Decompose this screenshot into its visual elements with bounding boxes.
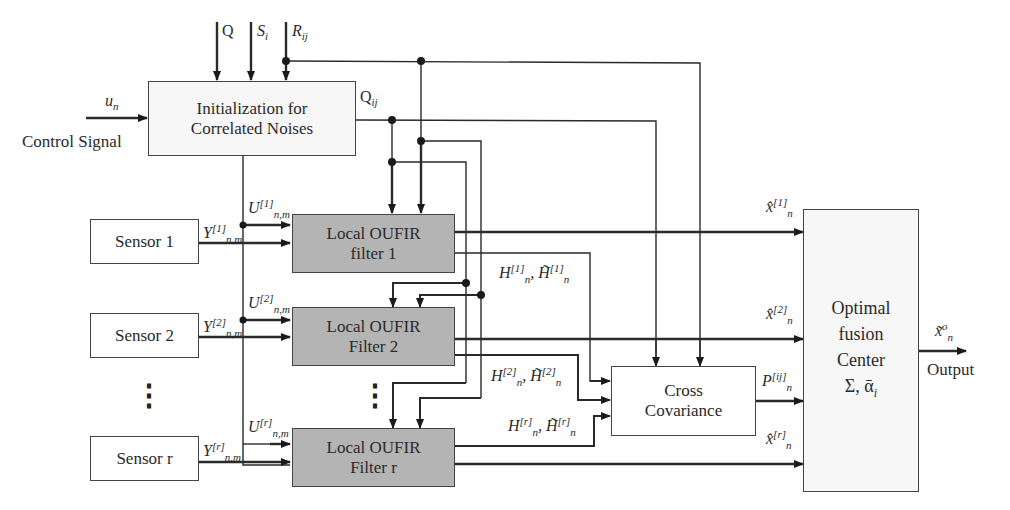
p-label: P[ij]n [762, 370, 792, 393]
control-signal-label: Control Signal [22, 132, 122, 152]
filter-r-block: Local OUFIRFilter r [292, 428, 455, 487]
y2-label: Y[2]n,m [203, 316, 242, 339]
control-u-label: un [105, 92, 119, 112]
output-xo-label: x̃on [935, 320, 953, 343]
sensor-ellipsis: ⋮ [134, 380, 164, 410]
u2-label: U[2]n,m [248, 292, 290, 315]
xhat2-label: x̂[2]n [766, 303, 793, 326]
init-line2: Correlated Noises [191, 119, 313, 139]
u1-label: U[1]n,m [248, 197, 290, 220]
qij-label: Qij [360, 88, 378, 108]
cross-covariance-block: CrossCovariance [611, 366, 756, 436]
ur-label: U[r]n,m [248, 416, 289, 439]
input-q-label: Q [222, 22, 234, 40]
init-line1: Initialization for [197, 99, 308, 119]
filter-1-block: Local OUFIRfilter 1 [292, 214, 455, 273]
y1-label: Y[1]n,m [203, 222, 242, 245]
sensor-2-block: Sensor 2 [90, 313, 199, 358]
hr-label: H[r]n, H̃[r]n [508, 415, 576, 438]
sensor-1-block: Sensor 1 [90, 219, 199, 264]
input-r-label: Rij [292, 22, 308, 42]
yr-label: Y[r]n,m [203, 440, 241, 463]
fusion-center-block: Optimal fusion Center Σ, ᾱi [803, 209, 919, 492]
initialization-block: Initialization for Correlated Noises [148, 81, 356, 156]
h2-label: H[2]n, H̃[2]n [491, 365, 561, 388]
h1-label: H[1]n, H̃[1]n [499, 262, 569, 285]
sensor-r-block: Sensor r [90, 436, 199, 481]
output-label: Output [927, 360, 974, 380]
filter-2-block: Local OUFIRFilter 2 [292, 307, 455, 366]
input-s-label: Si [257, 22, 268, 42]
filter-ellipsis: ⋮ [360, 380, 390, 410]
xhatr-label: x̂[r]n [766, 428, 791, 451]
xhat1-label: x̂[1]n [766, 196, 793, 219]
